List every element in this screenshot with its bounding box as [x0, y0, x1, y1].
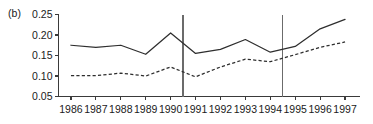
x-tick-label: 1991: [184, 103, 208, 115]
x-tick-label: 1986: [59, 103, 83, 115]
y-axis-tick-labels: 0.050.100.150.200.25: [32, 8, 53, 102]
y-tick-label: 0.10: [32, 70, 53, 82]
x-axis-tick-labels: 1986198719881989199019911992199319941995…: [59, 103, 357, 115]
series-solid-line: [71, 19, 345, 54]
chart-figure: (b) 0.050.100.150.200.25 198619871988198…: [0, 0, 373, 124]
x-tick-label: 1995: [284, 103, 308, 115]
x-tick-label: 1993: [234, 103, 258, 115]
x-tick-label: 1990: [159, 103, 183, 115]
x-tick-label: 1987: [84, 103, 108, 115]
x-tick-label: 1994: [259, 103, 283, 115]
line-chart-plot: 0.050.100.150.200.25 1986198719881989199…: [0, 0, 373, 124]
vertical-reference-lines: [183, 15, 283, 97]
y-tick-label: 0.15: [32, 49, 53, 61]
x-tick-label: 1989: [134, 103, 158, 115]
x-tick-label: 1988: [109, 103, 133, 115]
y-tick-label: 0.05: [32, 90, 53, 102]
y-tick-label: 0.25: [32, 8, 53, 20]
x-tick-label: 1997: [333, 103, 357, 115]
x-tick-label: 1996: [308, 103, 332, 115]
y-tick-label: 0.20: [32, 29, 53, 41]
series-dashed-line: [71, 42, 345, 77]
x-tick-label: 1992: [209, 103, 233, 115]
